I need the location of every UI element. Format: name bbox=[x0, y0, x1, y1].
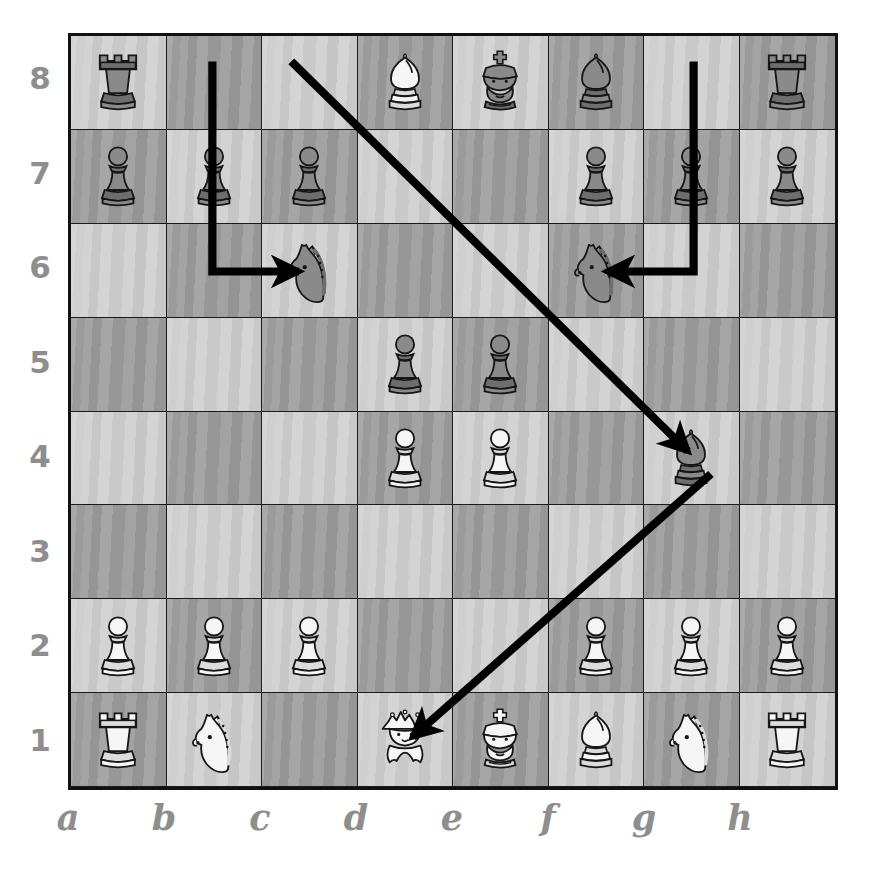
black-rook-icon[interactable] bbox=[83, 47, 153, 117]
square-b2[interactable] bbox=[167, 599, 263, 693]
square-a8[interactable] bbox=[71, 36, 167, 130]
white-pawn-icon[interactable] bbox=[179, 611, 249, 681]
square-g5[interactable] bbox=[644, 318, 740, 412]
square-c6[interactable] bbox=[262, 224, 358, 318]
square-e1[interactable] bbox=[453, 693, 549, 787]
square-d5[interactable] bbox=[358, 318, 454, 412]
square-c2[interactable] bbox=[262, 599, 358, 693]
black-bishop-icon[interactable] bbox=[656, 423, 726, 493]
black-pawn-icon[interactable] bbox=[83, 141, 153, 211]
square-b3[interactable] bbox=[167, 505, 263, 599]
square-d8[interactable] bbox=[358, 36, 454, 130]
square-e6[interactable] bbox=[453, 224, 549, 318]
square-f2[interactable] bbox=[549, 599, 645, 693]
square-g2[interactable] bbox=[644, 599, 740, 693]
black-pawn-icon[interactable] bbox=[370, 329, 440, 399]
white-bishop-icon[interactable] bbox=[561, 705, 631, 775]
white-pawn-icon[interactable] bbox=[561, 611, 631, 681]
black-rook-icon[interactable] bbox=[752, 47, 822, 117]
white-rook-icon[interactable] bbox=[83, 705, 153, 775]
black-knight-icon[interactable] bbox=[274, 235, 344, 305]
black-bishop-icon[interactable] bbox=[561, 47, 631, 117]
square-b8[interactable] bbox=[167, 36, 263, 130]
file-label-c: c bbox=[212, 800, 308, 835]
square-a7[interactable] bbox=[71, 130, 167, 224]
square-f8[interactable] bbox=[549, 36, 645, 130]
white-pawn-icon[interactable] bbox=[274, 611, 344, 681]
square-e4[interactable] bbox=[453, 412, 549, 506]
chess-board[interactable] bbox=[68, 33, 838, 790]
square-e8[interactable] bbox=[453, 36, 549, 130]
square-a2[interactable] bbox=[71, 599, 167, 693]
square-c4[interactable] bbox=[262, 412, 358, 506]
square-c7[interactable] bbox=[262, 130, 358, 224]
square-g8[interactable] bbox=[644, 36, 740, 130]
square-d2[interactable] bbox=[358, 599, 454, 693]
white-pawn-icon[interactable] bbox=[370, 423, 440, 493]
square-g3[interactable] bbox=[644, 505, 740, 599]
square-f6[interactable] bbox=[549, 224, 645, 318]
white-pawn-icon[interactable] bbox=[656, 611, 726, 681]
square-b5[interactable] bbox=[167, 318, 263, 412]
white-knight-icon[interactable] bbox=[656, 705, 726, 775]
square-g4[interactable] bbox=[644, 412, 740, 506]
square-f7[interactable] bbox=[549, 130, 645, 224]
white-knight-icon[interactable] bbox=[179, 705, 249, 775]
square-f5[interactable] bbox=[549, 318, 645, 412]
square-b4[interactable] bbox=[167, 412, 263, 506]
square-h4[interactable] bbox=[740, 412, 836, 506]
black-pawn-icon[interactable] bbox=[179, 141, 249, 211]
square-d3[interactable] bbox=[358, 505, 454, 599]
square-h7[interactable] bbox=[740, 130, 836, 224]
chess-diagram-stage: 8 7 6 5 4 3 2 1 a b c d e f g h bbox=[0, 0, 882, 890]
square-d4[interactable] bbox=[358, 412, 454, 506]
white-queen-icon[interactable] bbox=[370, 705, 440, 775]
black-pawn-icon[interactable] bbox=[656, 141, 726, 211]
square-b1[interactable] bbox=[167, 693, 263, 787]
square-a4[interactable] bbox=[71, 412, 167, 506]
square-e2[interactable] bbox=[453, 599, 549, 693]
square-a6[interactable] bbox=[71, 224, 167, 318]
file-label-f: f bbox=[500, 800, 596, 835]
white-rook-icon[interactable] bbox=[752, 705, 822, 775]
square-g6[interactable] bbox=[644, 224, 740, 318]
file-label-d: d bbox=[308, 800, 404, 835]
square-g1[interactable] bbox=[644, 693, 740, 787]
square-c1[interactable] bbox=[262, 693, 358, 787]
black-king-icon[interactable] bbox=[465, 47, 535, 117]
square-f4[interactable] bbox=[549, 412, 645, 506]
square-c5[interactable] bbox=[262, 318, 358, 412]
black-pawn-icon[interactable] bbox=[752, 141, 822, 211]
square-b7[interactable] bbox=[167, 130, 263, 224]
black-pawn-icon[interactable] bbox=[465, 329, 535, 399]
white-pawn-icon[interactable] bbox=[752, 611, 822, 681]
white-bishop-icon[interactable] bbox=[370, 47, 440, 117]
square-e5[interactable] bbox=[453, 318, 549, 412]
square-b6[interactable] bbox=[167, 224, 263, 318]
square-h8[interactable] bbox=[740, 36, 836, 130]
square-f3[interactable] bbox=[549, 505, 645, 599]
square-d1[interactable] bbox=[358, 693, 454, 787]
square-h5[interactable] bbox=[740, 318, 836, 412]
black-pawn-icon[interactable] bbox=[561, 141, 631, 211]
white-pawn-icon[interactable] bbox=[83, 611, 153, 681]
white-pawn-icon[interactable] bbox=[465, 423, 535, 493]
square-h3[interactable] bbox=[740, 505, 836, 599]
square-h2[interactable] bbox=[740, 599, 836, 693]
square-d6[interactable] bbox=[358, 224, 454, 318]
black-knight-icon[interactable] bbox=[561, 235, 631, 305]
square-d7[interactable] bbox=[358, 130, 454, 224]
square-e7[interactable] bbox=[453, 130, 549, 224]
square-a3[interactable] bbox=[71, 505, 167, 599]
square-h1[interactable] bbox=[740, 693, 836, 787]
white-king-icon[interactable] bbox=[465, 705, 535, 775]
square-c8[interactable] bbox=[262, 36, 358, 130]
square-g7[interactable] bbox=[644, 130, 740, 224]
square-e3[interactable] bbox=[453, 505, 549, 599]
black-pawn-icon[interactable] bbox=[274, 141, 344, 211]
square-h6[interactable] bbox=[740, 224, 836, 318]
square-a5[interactable] bbox=[71, 318, 167, 412]
square-f1[interactable] bbox=[549, 693, 645, 787]
square-a1[interactable] bbox=[71, 693, 167, 787]
square-c3[interactable] bbox=[262, 505, 358, 599]
